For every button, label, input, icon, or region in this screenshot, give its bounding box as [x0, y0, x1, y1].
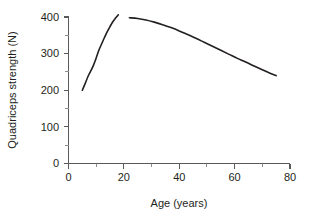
x-tick-label: 0: [65, 171, 71, 183]
quadriceps-strength-line-chart: 0100200300400 020406080 Age (years) Quad…: [0, 0, 313, 218]
chart-background: [0, 0, 313, 218]
x-tick-label: 60: [229, 171, 241, 183]
x-tick-label: 20: [118, 171, 130, 183]
y-tick-label: 400: [41, 11, 59, 23]
x-tick-label: 40: [173, 171, 185, 183]
chart-container: 0100200300400 020406080 Age (years) Quad…: [0, 0, 313, 218]
y-tick-label: 100: [41, 121, 59, 133]
x-tick-label: 80: [284, 171, 296, 183]
y-tick-label: 300: [41, 47, 59, 59]
y-axis-title: Quadriceps strength (N): [6, 31, 18, 148]
y-tick-label: 200: [41, 84, 59, 96]
y-tick-label: 0: [53, 157, 59, 169]
x-axis-title: Age (years): [151, 197, 208, 209]
